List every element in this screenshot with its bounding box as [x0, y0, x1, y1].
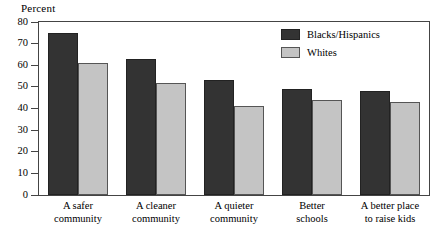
y-axis-tick-label: 80	[18, 17, 29, 27]
bar	[156, 83, 186, 195]
y-axis-tick-label: 30	[18, 125, 29, 135]
bar	[312, 100, 342, 195]
y-axis-tick	[31, 130, 38, 131]
y-axis-tick	[31, 108, 38, 109]
bar	[48, 33, 78, 195]
y-axis-tick	[31, 195, 38, 196]
bar	[234, 106, 264, 195]
y-axis-title: Percent	[21, 2, 55, 14]
y-axis-tick-label: 70	[18, 38, 29, 48]
legend-item-whites: Whites	[281, 46, 380, 59]
chart-legend: Blacks/Hispanics Whites	[281, 28, 380, 64]
y-axis-tick-label: 10	[18, 168, 29, 178]
bar	[78, 63, 108, 195]
y-axis-tick	[31, 173, 38, 174]
bar	[390, 102, 420, 195]
bar-group	[195, 22, 273, 195]
bar	[126, 59, 156, 195]
bar	[204, 80, 234, 195]
legend-label: Blacks/Hispanics	[307, 29, 380, 40]
y-axis-tick	[31, 151, 38, 152]
y-axis-tick	[31, 22, 38, 23]
legend-swatch-light-icon	[281, 47, 300, 58]
bar-group	[117, 22, 195, 195]
y-axis-tick-label: 60	[18, 60, 29, 70]
y-axis-tick-label: 40	[18, 103, 29, 113]
y-axis-tick	[31, 86, 38, 87]
x-axis-category-label: A better placeto raise kids	[339, 200, 441, 225]
bar	[360, 91, 390, 195]
legend-label: Whites	[307, 47, 337, 58]
y-axis-tick-label: 20	[18, 146, 29, 156]
legend-item-blacks-hispanics: Blacks/Hispanics	[281, 28, 380, 41]
bar	[282, 89, 312, 195]
bar-group	[39, 22, 117, 195]
y-axis-tick-label: 0	[23, 190, 28, 200]
y-axis-tick-label: 50	[18, 81, 29, 91]
legend-swatch-dark-icon	[281, 29, 300, 40]
y-axis-tick	[31, 43, 38, 44]
bar-chart: Percent 01020304050607080 A safercommuni…	[0, 0, 445, 240]
y-axis-tick	[31, 65, 38, 66]
